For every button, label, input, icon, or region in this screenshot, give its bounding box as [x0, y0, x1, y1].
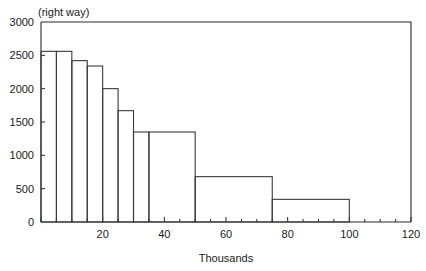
- y-tick-label: 500: [16, 183, 34, 195]
- y-axis-tick-labels: 050010001500200025003000: [10, 16, 34, 228]
- y-tick-label: 2000: [10, 83, 34, 95]
- y-tick-label: 3000: [10, 16, 34, 28]
- y-axis-ticks: [41, 55, 45, 188]
- histogram-bar: [41, 51, 56, 222]
- histogram-bar: [149, 132, 195, 222]
- histogram-bar: [134, 132, 149, 222]
- chart-canvas: 050010001500200025003000 20406080100120 …: [0, 0, 426, 271]
- y-tick-label: 2500: [10, 49, 34, 61]
- x-tick-label: 60: [220, 228, 232, 240]
- histogram-bar: [72, 61, 87, 222]
- plot-frame: [41, 22, 411, 222]
- histogram-bar: [56, 51, 71, 222]
- histogram-bar: [272, 199, 349, 222]
- y-tick-label: 0: [28, 216, 34, 228]
- x-axis-tick-labels: 20406080100120: [97, 228, 421, 240]
- x-tick-label: 20: [97, 228, 109, 240]
- histogram-bar: [87, 66, 102, 222]
- x-tick-label: 40: [158, 228, 170, 240]
- x-tick-label: 100: [340, 228, 358, 240]
- histogram-bar: [118, 111, 133, 222]
- x-axis-title: Thousands: [199, 252, 254, 264]
- y-tick-label: 1000: [10, 149, 34, 161]
- histogram-chart: 050010001500200025003000 20406080100120 …: [0, 0, 426, 271]
- histogram-bar: [195, 177, 272, 222]
- x-tick-label: 120: [402, 228, 420, 240]
- histogram-bar: [103, 89, 118, 222]
- y-tick-label: 1500: [10, 116, 34, 128]
- right-way-annotation: (right way): [38, 6, 89, 18]
- x-axis-ticks: [41, 217, 411, 222]
- x-tick-label: 80: [282, 228, 294, 240]
- histogram-bars: [41, 51, 349, 222]
